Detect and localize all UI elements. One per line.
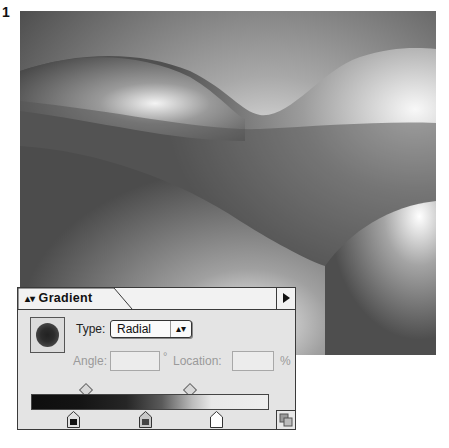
- gradient-preview-swatch[interactable]: [30, 317, 65, 353]
- percent-unit: %: [280, 354, 291, 368]
- panel-title: Gradient: [39, 291, 93, 305]
- color-stop-1[interactable]: [67, 411, 80, 428]
- angle-field[interactable]: [110, 351, 160, 371]
- gradient-panel: ▴▾Gradient Type: Radial ▴▾ Angle: ° Loca…: [17, 287, 296, 430]
- color-stop-2[interactable]: [139, 411, 152, 428]
- resize-grip[interactable]: [276, 410, 295, 429]
- location-field[interactable]: [232, 351, 274, 371]
- gradient-slider-bar[interactable]: [31, 394, 269, 410]
- angle-label: Angle:: [73, 354, 107, 368]
- updown-arrows-icon: ▴▾: [25, 293, 36, 304]
- figure-number: 1: [2, 4, 10, 20]
- radial-preview: [36, 323, 59, 347]
- degree-unit: °: [163, 350, 167, 362]
- type-select-value: Radial: [117, 322, 151, 336]
- grip-icon: [277, 411, 295, 429]
- type-label: Type:: [76, 322, 105, 336]
- type-select[interactable]: Radial ▴▾: [110, 320, 192, 338]
- updown-arrows-icon: ▴▾: [170, 321, 191, 337]
- tab-gradient[interactable]: ▴▾Gradient: [18, 288, 134, 309]
- color-stop-3[interactable]: [210, 411, 223, 428]
- location-label: Location:: [173, 354, 222, 368]
- panel-titlebar: ▴▾Gradient: [18, 288, 295, 310]
- panel-menu-button[interactable]: [276, 288, 295, 309]
